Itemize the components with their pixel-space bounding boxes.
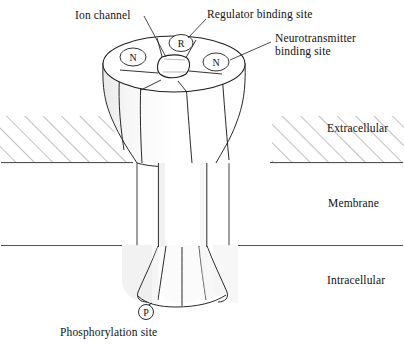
- ion-channel-pore: [158, 55, 190, 78]
- label-intracellular: Intracellular: [327, 274, 385, 287]
- subunit-letter-r: R: [174, 38, 188, 49]
- label-phosphorylation-site: Phosphorylation site: [60, 326, 157, 339]
- subunit-letter-p: P: [139, 307, 153, 318]
- receptor-diagram: Ion channel Regulator binding site Neuro…: [0, 0, 404, 346]
- label-ion-channel: Ion channel: [75, 9, 131, 22]
- label-extracellular: Extracellular: [327, 122, 388, 135]
- transmembrane-column: [158, 163, 207, 247]
- subunit-letter-n-left: N: [126, 52, 140, 63]
- label-membrane: Membrane: [328, 197, 379, 210]
- label-regulator-binding-site: Regulator binding site: [207, 8, 313, 21]
- label-neurotransmitter-binding-site: Neurotransmitter binding site: [275, 32, 356, 58]
- subunit-letter-n-right: N: [209, 57, 223, 68]
- leader-regulator: [188, 19, 206, 38]
